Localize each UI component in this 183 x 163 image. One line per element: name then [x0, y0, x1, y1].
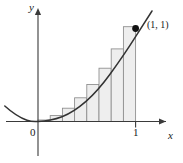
riemann-rectangles	[38, 27, 136, 122]
riemann-sum-figure: y x 0 1 (1, 1)	[0, 0, 183, 163]
y-axis-arrow-icon	[35, 8, 41, 15]
origin-label: 0	[30, 127, 36, 138]
x-tick-label-1: 1	[133, 127, 139, 138]
riemann-bar	[123, 27, 135, 122]
x-axis-label: x	[168, 130, 173, 141]
riemann-bar	[111, 49, 123, 122]
x-axis-arrow-icon	[159, 118, 166, 124]
riemann-bar	[62, 108, 74, 121]
y-axis-label: y	[29, 2, 34, 13]
point-marker-1-1	[132, 25, 139, 32]
point-label-1-1: (1, 1)	[147, 20, 169, 30]
